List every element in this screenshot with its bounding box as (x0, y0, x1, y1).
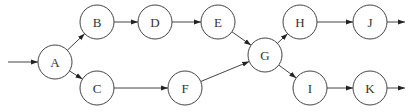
edge-A-B (67, 34, 84, 51)
nodes: ABCDEFGHIJK (38, 5, 387, 105)
edge-E-G (232, 32, 251, 45)
edge-G-H (277, 34, 287, 44)
node-H: H (283, 5, 317, 39)
edge-G-I (279, 65, 297, 78)
node-label: B (93, 15, 102, 30)
node-label: F (181, 81, 188, 96)
node-label: H (295, 15, 304, 30)
node-label: I (308, 81, 312, 96)
node-I: I (293, 71, 327, 105)
node-J: J (353, 5, 387, 39)
node-label: J (367, 15, 372, 30)
edge-F-G (201, 61, 250, 81)
node-D: D (138, 5, 172, 39)
node-E: E (201, 5, 235, 39)
node-B: B (80, 5, 114, 39)
edge-A-C (69, 71, 82, 79)
node-label: K (365, 81, 375, 96)
node-A: A (38, 45, 72, 79)
node-label: C (93, 81, 102, 96)
node-label: E (214, 15, 222, 30)
node-K: K (353, 71, 387, 105)
node-label: G (260, 48, 269, 63)
node-label: A (50, 55, 60, 70)
node-G: G (248, 38, 282, 72)
node-C: C (80, 71, 114, 105)
node-F: F (168, 71, 202, 105)
node-label: D (150, 15, 159, 30)
network-diagram: ABCDEFGHIJK (0, 0, 409, 112)
diagram-canvas: ABCDEFGHIJK (0, 0, 409, 112)
